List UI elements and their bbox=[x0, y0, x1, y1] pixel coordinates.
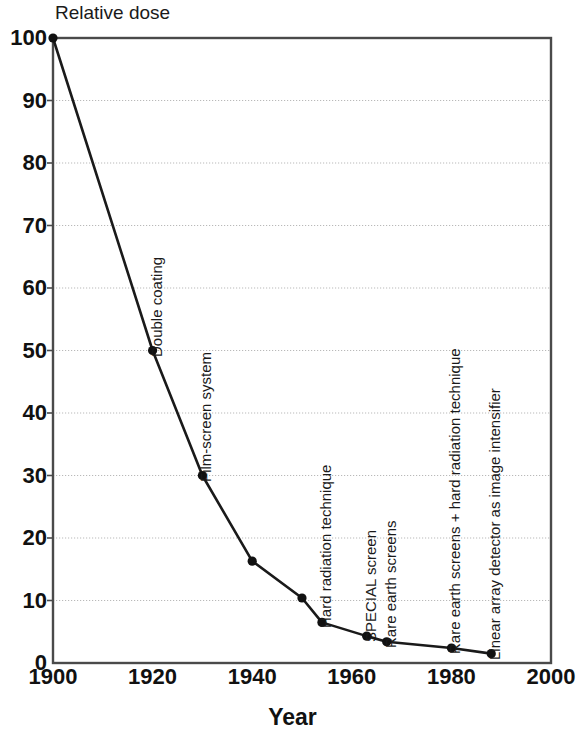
x-axis-tick-label: 2000 bbox=[527, 666, 576, 688]
y-axis-tick-label: 80 bbox=[1, 152, 47, 174]
y-axis-tick-label: 60 bbox=[1, 277, 47, 299]
x-axis-tick-label: 1920 bbox=[128, 666, 177, 688]
point-annotation-label: Linear array detector as image intensifi… bbox=[487, 388, 502, 660]
data-point-marker bbox=[248, 557, 257, 566]
y-axis-tick-label: 100 bbox=[1, 27, 47, 49]
y-axis-tick-label: 40 bbox=[1, 402, 47, 424]
point-annotation-label: Rare earth screens bbox=[383, 520, 398, 648]
x-axis-tick-label: 1940 bbox=[228, 666, 277, 688]
x-axis-tick-label: 1900 bbox=[29, 666, 78, 688]
x-axis-title: Year bbox=[0, 704, 585, 731]
relative-dose-chart: Relative dose 01020304050607080901001900… bbox=[0, 0, 585, 743]
point-annotation-label: Hard radiation technique bbox=[318, 465, 333, 628]
y-axis-title: Relative dose bbox=[55, 2, 170, 24]
data-point-marker bbox=[297, 593, 306, 602]
data-point-marker bbox=[48, 33, 57, 42]
point-annotation-label: Rare earth screens + hard radiation tech… bbox=[447, 348, 462, 654]
y-axis-tick-label: 10 bbox=[1, 590, 47, 612]
y-axis-tick-label: 30 bbox=[1, 465, 47, 487]
y-axis-tick-label: 20 bbox=[1, 527, 47, 549]
y-axis-tick-label: 50 bbox=[1, 340, 47, 362]
point-annotation-label: Double coating bbox=[149, 256, 164, 356]
y-axis-tick-label: 70 bbox=[1, 215, 47, 237]
series-line bbox=[53, 38, 491, 654]
point-annotation-label: SPECIAL screen bbox=[363, 530, 378, 642]
x-axis-tick-label: 1960 bbox=[327, 666, 376, 688]
x-axis-tick-label: 1980 bbox=[427, 666, 476, 688]
point-annotation-label: Film-screen system bbox=[198, 351, 213, 481]
y-axis-tick-label: 90 bbox=[1, 90, 47, 112]
